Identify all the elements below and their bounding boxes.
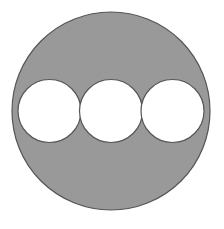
figure-canvas	[0, 0, 224, 229]
geometry-figure-svg	[0, 0, 224, 229]
